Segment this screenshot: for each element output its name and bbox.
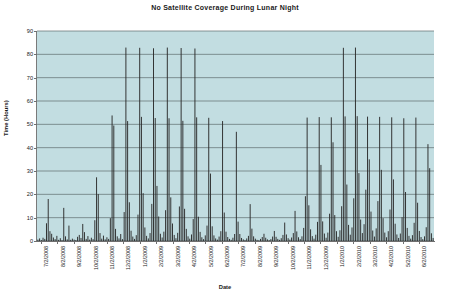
x-tick-label: 5/2/2010 xyxy=(405,246,411,267)
x-tick-label: 5/2/2009 xyxy=(208,246,214,267)
x-tick-label: 7/2/2009 xyxy=(240,246,246,267)
x-tick-mark xyxy=(205,241,206,244)
x-tick-mark xyxy=(255,241,256,244)
x-tick-label: 3/2/2009 xyxy=(175,246,181,267)
x-tick-mark xyxy=(370,241,371,244)
x-tick-mark xyxy=(123,241,124,244)
y-tick-mark xyxy=(34,78,37,79)
x-tick-label: 11/2/2008 xyxy=(109,246,115,270)
x-tick-label: 9/2/2009 xyxy=(273,246,279,267)
x-tick-mark xyxy=(156,241,157,244)
x-tick-label: 10/2/2009 xyxy=(290,246,296,270)
y-tick-label: 90 xyxy=(27,28,33,34)
x-tick-mark xyxy=(337,241,338,244)
x-tick-label: 4/2/2009 xyxy=(191,246,197,267)
bar-series xyxy=(37,31,434,241)
x-tick-label: 2/2/2010 xyxy=(356,246,362,267)
x-tick-mark xyxy=(238,241,239,244)
y-tick-label: 80 xyxy=(27,51,33,57)
x-tick-label: 3/2/2010 xyxy=(372,246,378,267)
y-tick-label: 50 xyxy=(27,121,33,127)
x-tick-label: 10/2/2008 xyxy=(93,246,99,270)
y-tick-mark xyxy=(34,171,37,172)
y-tick-mark xyxy=(34,54,37,55)
x-tick-mark xyxy=(304,241,305,244)
chart-title: No Satellite Coverage During Lunar Night xyxy=(0,4,450,11)
plot-wrap: 0102030405060708090 7/2/20088/2/20089/2/… xyxy=(37,31,434,241)
y-tick-label: 10 xyxy=(27,215,33,221)
y-tick-label: 0 xyxy=(30,238,33,244)
x-tick-mark xyxy=(403,241,404,244)
y-tick-label: 40 xyxy=(27,145,33,151)
x-tick-label: 2/2/2009 xyxy=(158,246,164,267)
x-tick-label: 4/2/2010 xyxy=(388,246,394,267)
y-tick-mark xyxy=(34,101,37,102)
x-tick-label: 8/2/2009 xyxy=(257,246,263,267)
x-tick-mark xyxy=(288,241,289,244)
x-tick-mark xyxy=(271,241,272,244)
x-tick-mark xyxy=(386,241,387,244)
y-tick-label: 60 xyxy=(27,98,33,104)
chart-container: No Satellite Coverage During Lunar Night… xyxy=(0,0,450,304)
x-tick-label: 9/2/2008 xyxy=(76,246,82,267)
x-tick-mark xyxy=(90,241,91,244)
y-tick-mark xyxy=(34,218,37,219)
x-tick-label: 6/2/2009 xyxy=(224,246,230,267)
y-tick-mark xyxy=(34,194,37,195)
x-tick-mark xyxy=(57,241,58,244)
x-tick-mark xyxy=(189,241,190,244)
x-axis-title: Date xyxy=(0,284,450,290)
y-tick-mark xyxy=(34,241,37,242)
x-tick-label: 6/2/2010 xyxy=(421,246,427,267)
x-tick-mark xyxy=(222,241,223,244)
x-tick-mark xyxy=(107,241,108,244)
x-tick-label: 8/2/2008 xyxy=(60,246,66,267)
x-tick-label: 1/2/2010 xyxy=(339,246,345,267)
x-axis-line xyxy=(36,241,435,242)
x-tick-label: 12/2/2008 xyxy=(125,246,131,270)
x-tick-label: 11/2/2009 xyxy=(306,246,312,270)
x-tick-mark xyxy=(140,241,141,244)
y-tick-mark xyxy=(34,148,37,149)
x-tick-mark xyxy=(41,241,42,244)
y-axis-title: Time (Hours) xyxy=(3,100,9,136)
y-tick-label: 20 xyxy=(27,191,33,197)
y-tick-label: 30 xyxy=(27,168,33,174)
x-tick-mark xyxy=(74,241,75,244)
x-tick-label: 1/2/2009 xyxy=(142,246,148,267)
x-tick-mark xyxy=(353,241,354,244)
x-tick-label: 12/2/2009 xyxy=(323,246,329,270)
x-tick-mark xyxy=(320,241,321,244)
x-tick-mark xyxy=(419,241,420,244)
y-tick-label: 70 xyxy=(27,75,33,81)
y-tick-mark xyxy=(34,124,37,125)
y-axis-line xyxy=(36,31,37,242)
x-tick-label: 7/2/2008 xyxy=(43,246,49,267)
x-tick-mark xyxy=(173,241,174,244)
y-tick-mark xyxy=(34,31,37,32)
